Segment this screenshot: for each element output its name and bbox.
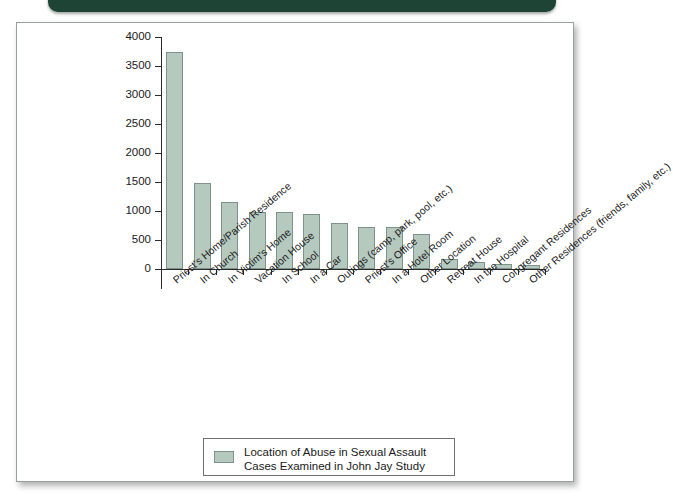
y-axis-tick-label: 500	[107, 234, 151, 245]
y-axis-tick-label: 2500	[107, 118, 151, 129]
y-axis-tick-label: 2000	[107, 147, 151, 158]
y-axis-label-wrap: 500	[103, 234, 151, 245]
y-axis-tick-label: 4000	[107, 31, 151, 42]
x-axis-category-label: Other Residences (friends, family, etc.)	[527, 161, 672, 286]
y-axis-label-wrap: 3000	[103, 89, 151, 100]
y-axis-label-wrap: 4000	[103, 31, 151, 42]
chart-plot-area: 05001000150020002500300035004000 Priest'…	[17, 23, 575, 483]
y-axis-label-wrap: 3500	[103, 60, 151, 71]
top-banner	[48, 0, 556, 12]
x-axis-tick	[161, 269, 162, 275]
chart-legend: Location of Abuse in Sexual Assault Case…	[203, 438, 455, 476]
y-axis-label-wrap: 1000	[103, 205, 151, 216]
y-axis-tick	[155, 153, 161, 154]
y-axis-label-wrap: 1500	[103, 176, 151, 187]
legend-label-line1: Location of Abuse in Sexual Assault	[244, 445, 450, 459]
y-axis-label-wrap: 0	[103, 263, 151, 274]
bar	[166, 52, 183, 270]
y-axis-tick-label: 1500	[107, 176, 151, 187]
y-axis-tick-label: 3000	[107, 89, 151, 100]
legend-swatch	[214, 451, 234, 463]
y-axis-label-wrap: 2000	[103, 147, 151, 158]
y-axis-tick	[155, 37, 161, 38]
legend-label-line2: Cases Examined in John Jay Study	[244, 459, 450, 473]
y-axis-tick	[155, 124, 161, 125]
y-axis-label-wrap: 2500	[103, 118, 151, 129]
y-axis-tick	[155, 240, 161, 241]
y-axis-tick	[155, 66, 161, 67]
y-axis-tick-label: 1000	[107, 205, 151, 216]
y-axis-tick	[155, 211, 161, 212]
y-axis-tick	[155, 182, 161, 183]
y-axis-line	[161, 37, 162, 289]
y-axis-tick	[155, 95, 161, 96]
y-axis-tick-label: 0	[107, 263, 151, 274]
y-axis-tick-label: 3500	[107, 60, 151, 71]
figure-panel: 05001000150020002500300035004000 Priest'…	[16, 22, 574, 482]
legend-label: Location of Abuse in Sexual Assault Case…	[244, 445, 450, 473]
